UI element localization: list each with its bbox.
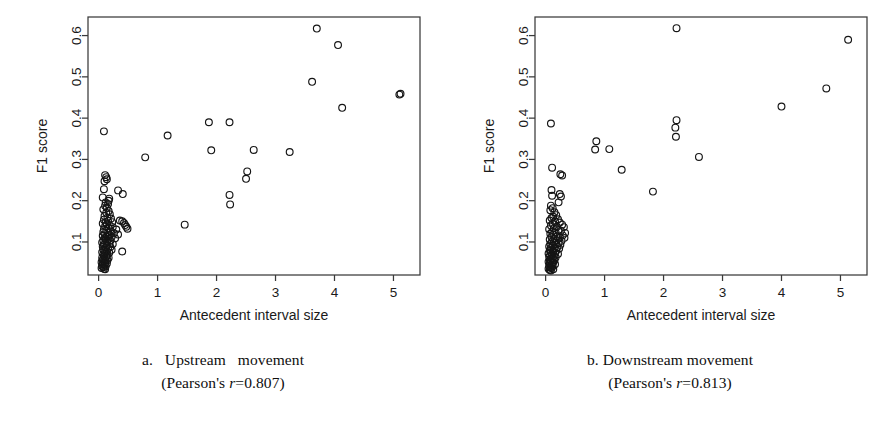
data-point-group [545,25,851,274]
data-point [823,85,830,92]
data-point [592,146,599,153]
data-point [606,146,613,153]
y-tick-label: 0.3 [516,150,531,169]
data-point [335,42,342,49]
data-point [696,154,703,161]
data-point [778,103,785,110]
data-point [549,164,556,171]
data-point [309,78,316,85]
scatter-svg-upstream: 0123450.10.20.30.40.50.6Antecedent inter… [0,0,446,340]
y-tick-label: 0.5 [69,67,84,86]
caption-upstream: a. Upstream movement (Pearson's r=0.807) [0,348,446,394]
scatter-svg-downstream: 0123450.10.20.30.40.50.6Antecedent inter… [447,0,893,340]
data-point [205,119,212,126]
data-point [226,119,233,126]
x-tick-label: 1 [154,285,162,300]
data-point [226,192,233,199]
y-tick-label: 0.1 [516,233,531,252]
data-point [243,175,250,182]
data-point [559,172,566,179]
y-axis-title: F1 score [481,119,497,174]
caption-upstream-r-value: =0.807) [235,374,284,391]
plot-frame [535,17,867,275]
caption-upstream-line1: a. Upstream movement [0,348,446,371]
data-point [672,124,679,131]
data-point [101,128,108,135]
data-point [618,166,625,173]
data-point [673,25,680,32]
data-point [244,168,251,175]
x-tick-label: 0 [542,285,550,300]
data-point [650,188,657,195]
caption-upstream-prefix: (Pearson's [161,374,229,391]
data-point [250,147,257,154]
x-tick-label: 4 [778,285,786,300]
data-point [142,154,149,161]
x-axis-title: Antecedent interval size [180,307,329,323]
data-point [593,138,600,145]
data-point [673,133,680,140]
data-point [115,187,122,194]
figure-two-panel-scatter: 0123450.10.20.30.40.50.6Antecedent inter… [0,0,893,439]
data-point [845,36,852,43]
caption-downstream-r-value: =0.813) [682,374,731,391]
caption-downstream-line1: b. Downstream movement [447,348,893,371]
x-tick-label: 5 [390,285,398,300]
data-point [286,149,293,156]
caption-downstream-line2: (Pearson's r=0.813) [447,371,893,394]
data-point [313,25,320,32]
x-tick-label: 2 [213,285,221,300]
data-point [548,120,555,127]
y-tick-label: 0.3 [69,150,84,169]
y-tick-label: 0.1 [69,233,84,252]
x-tick-label: 2 [660,285,668,300]
plot-area-downstream: 0123450.10.20.30.40.50.6Antecedent inter… [447,0,893,340]
data-point [339,104,346,111]
data-point [101,186,108,193]
y-tick-label: 0.2 [516,191,531,210]
caption-upstream-line2: (Pearson's r=0.807) [0,371,446,394]
x-tick-label: 4 [331,285,339,300]
y-tick-label: 0.5 [516,67,531,86]
data-point [555,199,562,206]
y-axis-title: F1 score [34,119,50,174]
data-point [164,132,171,139]
data-point-group [98,25,404,272]
x-tick-label: 3 [272,285,280,300]
caption-downstream-prefix: (Pearson's [608,374,676,391]
panel-upstream: 0123450.10.20.30.40.50.6Antecedent inter… [0,0,446,439]
y-tick-label: 0.2 [69,191,84,210]
x-tick-label: 1 [601,285,609,300]
panel-downstream: 0123450.10.20.30.40.50.6Antecedent inter… [447,0,893,439]
y-tick-label: 0.4 [69,108,84,127]
plot-area-upstream: 0123450.10.20.30.40.50.6Antecedent inter… [0,0,446,340]
x-tick-label: 3 [719,285,727,300]
x-tick-label: 0 [95,285,103,300]
data-point [208,147,215,154]
data-point [119,191,126,198]
x-axis-title: Antecedent interval size [627,307,776,323]
y-tick-label: 0.6 [516,26,531,45]
x-tick-label: 5 [837,285,845,300]
y-tick-label: 0.4 [516,108,531,127]
data-point [119,248,126,255]
y-tick-label: 0.6 [69,26,84,45]
data-point [673,117,680,124]
data-point [227,201,234,208]
caption-downstream: b. Downstream movement (Pearson's r=0.81… [447,348,893,394]
data-point [181,221,188,228]
